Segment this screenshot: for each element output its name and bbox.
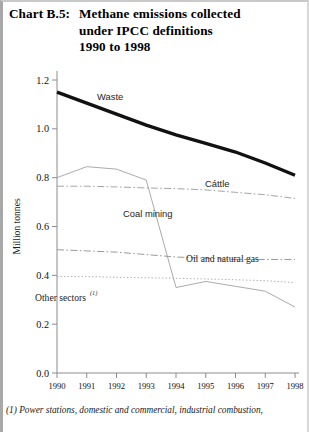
x-axis-tick-label: 1995 [197, 381, 214, 391]
series-label-oil-and-natural-gas: Oil and natural gas [186, 253, 259, 264]
series-label-coal-mining: Coal mining [123, 208, 173, 219]
chart-plot-area: 0.00.20.40.60.81.01.2Million tonnes19901… [0, 62, 309, 397]
series-label-waste: Waste [97, 91, 123, 102]
series-line-other-sectors [57, 277, 295, 283]
chart-footnote: (1) Power stations, domestic and commerc… [6, 404, 306, 416]
series-line-coal-mining [57, 167, 295, 307]
x-axis-tick-label: 1994 [167, 381, 185, 391]
x-axis-tick-label: 1992 [108, 381, 125, 391]
x-axis-tick-label: 1991 [78, 381, 95, 391]
series-label-other-sectors: Other sectors [35, 292, 86, 303]
line-chart: 0.00.20.40.60.81.01.2Million tonnes19901… [0, 62, 309, 397]
series-line-c-ttle [57, 186, 295, 198]
chart-number: Chart B.5: [9, 6, 79, 56]
x-axis-tick-label: 1997 [257, 381, 275, 391]
chart-title-line-1: Methane emissions collected [79, 6, 305, 23]
x-axis-tick-label: 1993 [138, 381, 155, 391]
chart-title: Chart B.5: Methane emissions collected u… [9, 6, 305, 56]
chart-title-line-2: under IPCC definitions [79, 23, 305, 40]
y-axis-tick-label: 0.8 [36, 172, 49, 183]
x-axis-tick-label: 1990 [48, 381, 65, 391]
y-axis-tick-label: 0.0 [36, 368, 49, 379]
y-axis-tick-label: 0.4 [36, 270, 49, 281]
y-axis-title: Million tonnes [11, 198, 22, 254]
chart-title-line-3: 1990 to 1998 [79, 39, 305, 56]
y-axis-tick-label: 1.2 [36, 75, 49, 86]
y-axis-tick-label: 0.6 [36, 221, 49, 232]
series-line-waste [57, 92, 295, 175]
series-label-other-sectors-superscript: (1) [90, 289, 97, 297]
y-axis-tick-label: 1.0 [36, 123, 49, 134]
series-line-oil-and-natural-gas [57, 250, 295, 260]
series-label-cattle: Cáttle [205, 178, 230, 189]
y-axis-tick-label: 0.2 [36, 319, 49, 330]
x-axis-tick-label: 1996 [227, 381, 245, 391]
x-axis-tick-label: 1998 [286, 381, 303, 391]
